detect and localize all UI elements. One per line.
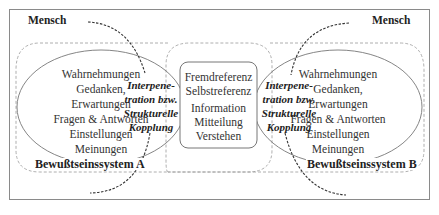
coupling-left-label: Interpene- tration bzw. Strukturelle Kop…	[118, 78, 184, 134]
coupling-arc-top-left	[88, 22, 145, 73]
coupling-right-label: Interpene- tration bzw. Strukturelle Kop…	[256, 78, 322, 134]
process-line: Mitteilung	[180, 115, 257, 129]
process-line: Information	[180, 101, 257, 115]
human-right-label: Mensch	[372, 15, 410, 27]
system-b-label: Bewußtseinssystem B	[306, 158, 418, 170]
reference-line: Selbstreferenz	[180, 84, 257, 98]
reference-line: Fremdreferenz	[180, 70, 257, 84]
system-a-item: Meinungen	[36, 142, 166, 157]
system-b-item: Meinungen	[273, 142, 403, 157]
human-left-label: Mensch	[28, 15, 66, 27]
system-a-label: Bewußtseinssystem A	[34, 158, 146, 170]
process-line: Verstehen	[180, 129, 257, 143]
communication-text: Fremdreferenz Selbstreferenz Information…	[180, 70, 257, 143]
